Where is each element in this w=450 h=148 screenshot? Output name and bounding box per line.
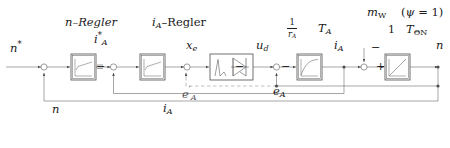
- signal-label-ia: iA: [334, 40, 344, 53]
- node-ia-tap: [342, 65, 345, 68]
- sum-xe: [184, 64, 190, 70]
- block-armature-lag[interactable]: [297, 54, 322, 80]
- sign-sum-current: −: [235, 61, 244, 72]
- block-title-speed-controller: n–Regler: [65, 17, 117, 29]
- signal-label-ia-ref: i*A: [94, 31, 108, 47]
- param-label-t-theta-n: TΘN: [406, 24, 427, 37]
- signal-label-n-ref: n*: [10, 40, 22, 54]
- signal-label-xe: xe: [186, 40, 197, 53]
- node-ea-tap: [436, 84, 439, 87]
- sign-sum-speed: −: [96, 61, 105, 72]
- sum-torque: [361, 64, 367, 70]
- param-label-inverse-ra: 1rA: [287, 18, 297, 39]
- feedback-label-ia: iA: [163, 103, 173, 116]
- sign-sum-xe: +: [376, 61, 385, 72]
- block-speed-controller[interactable]: [71, 54, 96, 80]
- sum-speed: [41, 64, 47, 70]
- feedback-label-ea-prime: e′A: [182, 86, 197, 102]
- feedback-label-n: n: [52, 104, 59, 116]
- block-diagram-canvas: n–Regler iA–Regler n* i*A xe ud iA n mW …: [0, 0, 450, 148]
- block-title-current-controller: iA–Regler: [152, 17, 206, 30]
- block-current-controller[interactable]: [140, 54, 165, 80]
- node-n-tap: [436, 65, 439, 68]
- block-converter[interactable]: [210, 54, 253, 80]
- signal-label-mw: mW: [367, 7, 386, 20]
- feedback-label-ea: eA: [273, 86, 286, 99]
- param-label-ta: TA: [318, 23, 331, 36]
- signal-label-n-out: n: [436, 40, 443, 52]
- sum-ud: [273, 64, 279, 70]
- block-mech-integrator[interactable]: [385, 54, 410, 80]
- signal-label-ud: ud: [256, 40, 269, 53]
- sign-sum-ud: −: [281, 61, 290, 72]
- sum-current: [110, 64, 116, 70]
- sign-sum-torque: −: [371, 42, 380, 53]
- param-label-gain-theta: 1: [388, 24, 395, 35]
- label-flux-assumption: (ψ = 1): [401, 7, 443, 19]
